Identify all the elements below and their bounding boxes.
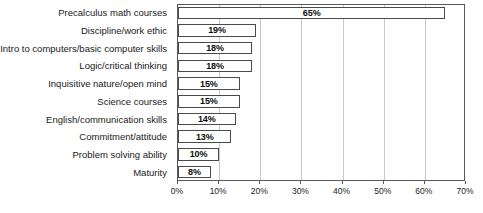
bar-value-label: 19% [179,25,255,36]
bar: 18% [178,42,252,55]
bar-value-label: 65% [179,8,444,19]
category-label: English/communication skills [0,114,172,125]
bar: 15% [178,77,240,90]
bar: 15% [178,95,240,108]
category-label: Discipline/work ethic [0,25,172,36]
x-tick-label: 60% [415,186,432,196]
category-label: Commitment/attitude [0,131,172,142]
category-label: Precalculus math courses [0,7,172,18]
bar: 8% [178,166,211,179]
x-tick-mark [177,181,178,184]
bar-row: 15% [178,94,464,112]
bar-row: 15% [178,76,464,94]
bar: 14% [178,113,236,126]
bar: 65% [178,7,445,20]
bar-chart: Precalculus math coursesDiscipline/work … [0,0,483,213]
bars-layer: 65%19%18%18%15%15%14%13%10%8% [178,5,464,180]
x-tick-mark [218,181,219,184]
category-label: Logic/critical thinking [0,60,172,71]
bar-value-label: 13% [179,131,230,142]
bar: 13% [178,130,231,143]
bar-value-label: 8% [179,167,210,178]
bar-value-label: 10% [179,149,218,160]
bar-row: 19% [178,23,464,41]
bar: 10% [178,148,219,161]
x-tick-label: 0% [171,186,183,196]
category-label: Problem solving ability [0,149,172,160]
bar-value-label: 15% [179,78,239,89]
category-label: Science courses [0,96,172,107]
x-tick-mark [465,181,466,184]
bar-value-label: 18% [179,43,251,54]
x-tick-mark [300,181,301,184]
bar: 19% [178,24,256,37]
x-tick-label: 20% [251,186,268,196]
x-tick-label: 70% [456,186,473,196]
bar-row: 65% [178,5,464,23]
bar-value-label: 14% [179,114,235,125]
x-tick-label: 50% [374,186,391,196]
x-tick-mark [383,181,384,184]
bar-row: 14% [178,111,464,129]
bar-row: 10% [178,147,464,165]
category-label-column: Precalculus math coursesDiscipline/work … [0,4,172,181]
bar-row: 13% [178,129,464,147]
x-tick-label: 10% [210,186,227,196]
category-label: Maturity [0,167,172,178]
category-label: Intro to computers/basic computer skills [0,43,172,54]
bar-value-label: 15% [179,96,239,107]
x-tick-mark [342,181,343,184]
x-tick-label: 30% [292,186,309,196]
x-tick-label: 40% [333,186,350,196]
x-tick-mark [424,181,425,184]
bar-row: 8% [178,164,464,182]
x-tick-mark [259,181,260,184]
bar: 18% [178,60,252,73]
category-label: Inquisitive nature/open mind [0,78,172,89]
bar-row: 18% [178,58,464,76]
bar-row: 18% [178,40,464,58]
plot-area: 65%19%18%18%15%15%14%13%10%8% [177,4,465,181]
bar-value-label: 18% [179,61,251,72]
x-axis: 0%10%20%30%40%50%60%70% [177,181,465,207]
